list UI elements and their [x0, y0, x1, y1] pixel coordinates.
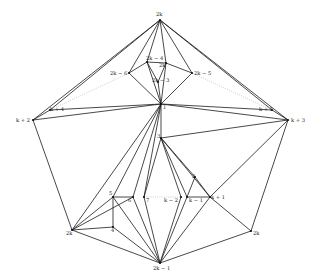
edge-v2k_p-v2k_5: [166, 63, 192, 73]
dotted-edge-vk4-v2k_6: [50, 73, 129, 110]
vertex-label-v2k_p: 2k′: [159, 62, 167, 68]
vertex-label-v2k_top: 2k: [156, 11, 163, 17]
vertex-vkm1: [186, 196, 188, 198]
vertex-vk3: [287, 119, 289, 121]
edge-vkm1-v2k_1: [160, 197, 187, 263]
vertex-v5: [112, 196, 114, 198]
edge-v5-v2k_1: [113, 197, 160, 263]
vertex-v2k_1: [159, 262, 161, 264]
graph-diagram: 2k2k − 42k′2k − 62k − 52k − 31k + 2k + 3…: [0, 0, 321, 278]
edge-v5-v2k_left: [72, 197, 113, 230]
vertex-label-v3: 3: [157, 133, 160, 139]
vertex-label-vkm1: k − 1: [189, 197, 203, 203]
vertex-label-v2k_6: 2k − 6: [110, 70, 127, 76]
edge-v2k_left-v4: [72, 227, 113, 230]
vertex-v7: [143, 196, 145, 198]
edge-vkp1-v2k_right: [210, 197, 251, 231]
vertex-label-v2k_5: 2k − 5: [194, 70, 211, 76]
vertex-label-vk3: k + 3: [291, 117, 305, 123]
edge-vkp1-v2k_1: [160, 197, 210, 263]
edge-v3-v2: [161, 138, 195, 177]
edge-vkm2-v2k_1: [160, 197, 181, 263]
vertex-label-v2: 2: [192, 173, 195, 179]
edge-v2k_left-v2k_1: [72, 230, 160, 263]
vertex-label-v2k_3: 2k − 3: [152, 77, 169, 83]
vertex-vkm2: [180, 196, 182, 198]
vertex-v6: [132, 196, 134, 198]
vertex-label-v1: 1: [163, 104, 166, 110]
edge-v1-v7: [144, 104, 161, 197]
vertex-v2k_6: [128, 72, 130, 74]
edge-v3-v7: [144, 138, 161, 197]
vertex-label-v2k_4: 2k − 4: [146, 55, 164, 61]
edge-v3-vk3: [161, 120, 288, 138]
vertex-label-v5: 5: [109, 190, 112, 196]
vertex-v2k_5: [191, 72, 193, 74]
vertex-label-v2k_1: 2k − 1: [153, 265, 170, 271]
edge-v3-vkm1: [161, 138, 187, 197]
vertex-label-vk5: k + 5: [259, 106, 273, 112]
edge-vk4-v1: [50, 104, 161, 110]
edge-v2k_top-v2k_6: [129, 20, 160, 73]
vertex-v2k_top: [159, 19, 161, 21]
vertex-v2k_right: [250, 230, 252, 232]
vertex-label-vkm2: k − 2: [164, 197, 178, 203]
vertex-label-v6: 6: [128, 197, 131, 203]
vertex-label-vk4: k + 4: [50, 106, 65, 112]
edge-v2k_4-v2k_6: [129, 62, 147, 73]
vertex-label-v7: 7: [146, 197, 149, 203]
vertex-v2k_4: [146, 61, 148, 63]
dotted-edge-vk5-v2k_5: [192, 73, 272, 110]
vertex-label-v2k_left: 2k: [66, 230, 73, 236]
edge-vk2-v2k_left: [33, 120, 72, 230]
edge-v2k_left-v6: [72, 197, 133, 230]
vertex-label-vk2: k + 2: [16, 117, 30, 123]
vertex-label-vkp1: k + 1: [211, 194, 225, 200]
vertex-vk2: [32, 119, 34, 121]
edge-vk3-v2k_right: [251, 120, 288, 231]
edge-vk5-v1: [161, 104, 272, 110]
edge-v2-vkm1: [187, 177, 195, 197]
vertex-v1: [160, 103, 162, 105]
edge-v2k_top-vk4: [50, 20, 160, 110]
vertex-label-v2k_right: 2k: [253, 230, 260, 236]
edge-v2-vkp1: [195, 177, 210, 197]
edge-vkp1-vk3: [210, 120, 288, 197]
edge-v3-vkm2: [161, 138, 181, 197]
edge-v2k_right-v2k_1: [160, 231, 251, 263]
edge-v2k_top-vk5: [160, 20, 272, 110]
